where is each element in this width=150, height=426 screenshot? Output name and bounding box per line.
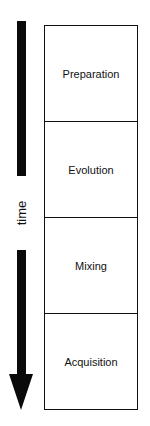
stage-stack: Preparation Evolution Mixing Acquisition (44, 25, 138, 410)
time-arrow-shaft-bottom (17, 250, 26, 376)
stage-preparation: Preparation (45, 26, 137, 122)
arrow-down-icon (9, 374, 33, 410)
stage-evolution: Evolution (45, 122, 137, 218)
stage-mixing: Mixing (45, 218, 137, 314)
time-axis-label: time (14, 201, 29, 226)
time-arrow-shaft-top (17, 21, 26, 176)
stage-acquisition: Acquisition (45, 314, 137, 409)
